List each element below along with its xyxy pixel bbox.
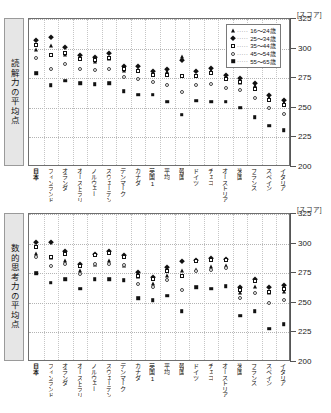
y-axis-tick — [290, 48, 296, 49]
data-point — [93, 253, 97, 257]
data-point — [180, 288, 184, 292]
gridline-vertical — [145, 19, 146, 165]
data-point — [78, 81, 82, 85]
gridline-horizontal — [29, 214, 289, 215]
data-point — [238, 288, 242, 292]
x-axis-label: チェコ — [207, 363, 213, 397]
data-point — [282, 287, 286, 291]
data-point — [136, 282, 140, 286]
gridline-vertical — [175, 19, 176, 165]
data-point — [136, 77, 140, 81]
data-point — [93, 82, 97, 86]
data-point — [34, 245, 38, 249]
gridline-horizontal — [29, 78, 289, 79]
y-axis-tick — [290, 107, 296, 108]
x-axis-label: スウェーデン — [105, 363, 111, 397]
x-axis-label: オーストラリア — [76, 168, 82, 202]
data-point — [165, 278, 169, 282]
gridline-vertical — [116, 19, 117, 165]
x-axis-label: イタリア — [280, 168, 286, 202]
y-axis-unit-label: [スコア] — [297, 204, 322, 214]
gridline-horizontal — [29, 108, 289, 109]
y-axis-tick-label: 250 — [298, 297, 311, 306]
x-axis-label: オランダ — [61, 363, 67, 397]
x-axis-label: フィンランド — [47, 363, 53, 397]
data-point — [180, 90, 184, 94]
chart2-y-axis: 325300275250225200[スコア] — [290, 213, 331, 361]
gridline-vertical — [160, 214, 161, 360]
chart2-y-spine — [290, 213, 291, 361]
x-axis-label: 日本 — [32, 168, 38, 202]
chart2-y-axis-title: 数的思考力の平均点 — [4, 213, 24, 361]
data-point — [63, 62, 67, 66]
data-point — [224, 86, 228, 90]
x-axis-label: デンマーク — [119, 168, 125, 202]
x-axis-label: デンマーク — [119, 363, 125, 397]
data-point — [136, 93, 140, 97]
data-point — [34, 43, 38, 47]
x-axis-label: フィンランド — [47, 168, 53, 202]
y-axis-tick — [290, 136, 296, 137]
data-point — [48, 34, 53, 39]
data-point — [238, 88, 242, 92]
y-axis-tick — [290, 166, 296, 167]
data-point — [253, 291, 257, 295]
data-point — [151, 80, 155, 84]
data-point — [209, 71, 213, 75]
y-axis-tick-label: 225 — [298, 327, 311, 336]
gridline-vertical — [189, 214, 190, 360]
y-axis-tick — [290, 243, 296, 244]
data-point — [136, 296, 140, 300]
legend-marker-icon — [230, 51, 236, 57]
gridline-vertical — [44, 19, 45, 165]
data-point — [64, 79, 68, 83]
y-axis-tick — [290, 213, 296, 214]
y-axis-tick-label: 250 — [298, 102, 311, 111]
data-point — [165, 83, 169, 87]
y-axis-tick — [290, 272, 296, 273]
legend-dotted-line: ····· — [237, 51, 248, 57]
y-axis-tick-label: 300 — [298, 43, 311, 52]
data-point — [209, 287, 213, 291]
data-point — [107, 67, 111, 71]
data-point — [195, 99, 199, 103]
x-axis-label: イタリア — [280, 363, 286, 397]
chart1-x-axis-labels: 日本フィンランドオランダオーストラリアノルウェースウェーデンデンマークカナダ英国… — [28, 168, 290, 202]
data-point — [194, 83, 198, 87]
data-point — [224, 100, 228, 104]
data-point — [107, 262, 111, 266]
data-point — [253, 309, 257, 313]
data-point — [122, 255, 126, 259]
data-point — [122, 75, 126, 79]
data-point — [49, 255, 53, 259]
gridline-vertical — [131, 214, 132, 360]
chart1-y-spine — [290, 18, 291, 166]
gridline-vertical — [145, 214, 146, 360]
data-point — [78, 57, 82, 61]
gridline-vertical — [73, 19, 74, 165]
gridline-vertical — [276, 214, 277, 360]
x-axis-label: ドイツ — [192, 363, 198, 397]
legend-dotted-line: ····· — [237, 43, 248, 49]
x-axis-label: スペイン — [265, 363, 271, 397]
gridline-vertical — [218, 19, 219, 165]
data-point — [34, 72, 38, 76]
data-point — [107, 81, 111, 85]
data-point — [136, 69, 140, 73]
x-axis-label: スウェーデン — [105, 168, 111, 202]
gridline-horizontal — [29, 332, 289, 333]
data-point — [282, 103, 286, 107]
data-point — [63, 252, 67, 256]
data-point — [253, 115, 257, 119]
gridline-vertical — [218, 214, 219, 360]
legend-marker-icon — [230, 28, 236, 34]
legend-dotted-line: ····· — [237, 35, 248, 41]
data-point — [180, 113, 184, 117]
data-point — [224, 258, 228, 262]
x-axis-label: オランダ — [61, 168, 67, 202]
gridline-vertical — [131, 19, 132, 165]
data-point — [209, 258, 213, 262]
data-point — [49, 281, 53, 285]
data-point — [122, 67, 126, 71]
data-point — [224, 284, 228, 288]
